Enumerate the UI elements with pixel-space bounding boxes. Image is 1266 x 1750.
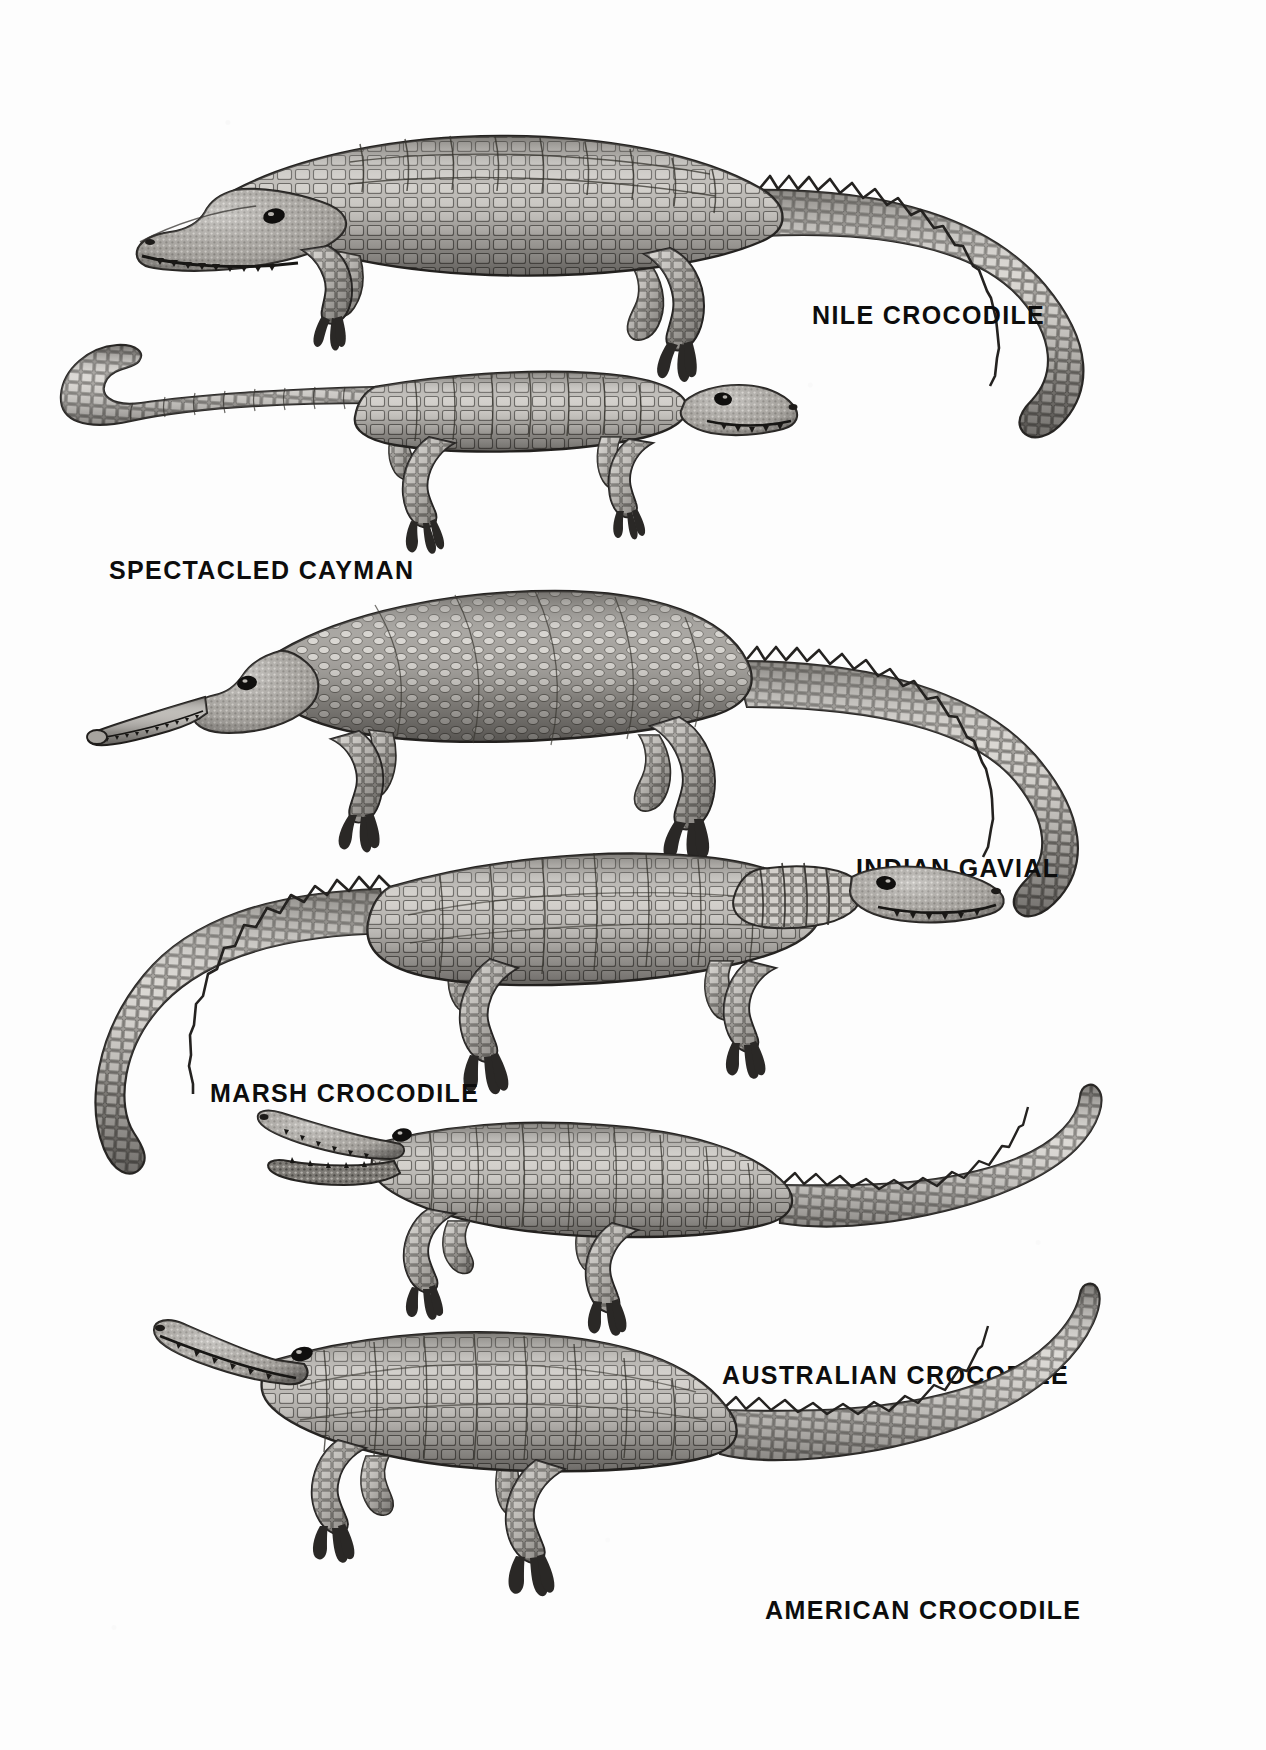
cayman-hind-foot	[406, 519, 444, 554]
label-american-crocodile: AMERICAN CROCODILE	[765, 1598, 1081, 1623]
gavial-hind-leg-far	[634, 735, 670, 811]
american-fore-leg-near	[312, 1440, 366, 1563]
american-head	[154, 1320, 314, 1384]
american-crocodile-illustration	[80, 1280, 1140, 1620]
cayman-head	[681, 385, 798, 435]
american-fore-foot	[313, 1524, 354, 1563]
australian-head	[258, 1111, 413, 1185]
cayman-tail	[61, 345, 375, 425]
specimen-spectacled-cayman	[45, 325, 825, 545]
marsh-neck-bands	[733, 863, 861, 928]
gavial-head-and-snout	[87, 651, 318, 745]
australian-fore-leg-far	[443, 1221, 473, 1274]
marsh-head	[850, 866, 1004, 922]
marsh-fore-leg-near	[724, 961, 776, 1079]
cayman-fore-foot	[613, 509, 645, 539]
label-nile-crocodile: NILE CROCODILE	[812, 303, 1045, 328]
specimen-american-crocodile	[80, 1280, 1140, 1620]
spectacled-cayman-illustration	[45, 325, 825, 545]
marsh-fore-foot	[726, 1041, 766, 1079]
australian-tail	[780, 1085, 1101, 1227]
american-fore-leg-far	[361, 1456, 393, 1515]
cayman-fore-leg-near	[609, 439, 653, 539]
american-hind-foot	[509, 1554, 555, 1596]
illustration-plate: NILE CROCODILE	[0, 0, 1266, 1750]
american-tail	[720, 1284, 1099, 1460]
